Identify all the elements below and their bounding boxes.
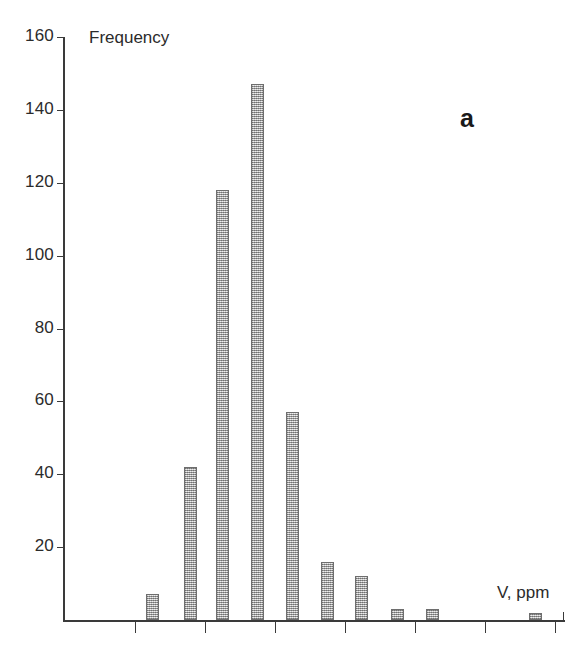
y-axis-tick xyxy=(57,329,65,330)
bar xyxy=(184,467,197,620)
x-axis-tick xyxy=(275,622,276,633)
y-axis-tick xyxy=(57,37,65,38)
x-axis-tick xyxy=(485,622,486,633)
bar xyxy=(391,609,404,620)
y-axis-tick-label: 20 xyxy=(8,536,54,556)
x-axis-tick xyxy=(135,622,136,633)
y-axis-title: Frequency xyxy=(89,28,169,48)
y-axis-tick-label: 40 xyxy=(8,463,54,483)
x-axis-title: V, ppm xyxy=(497,583,549,603)
bar xyxy=(355,576,368,620)
y-axis-tick xyxy=(57,183,65,184)
x-axis-tick xyxy=(345,622,346,633)
y-axis-tick xyxy=(57,256,65,257)
y-axis-tick-label: 120 xyxy=(8,172,54,192)
bar xyxy=(216,190,229,620)
y-axis-tick xyxy=(57,547,65,548)
x-axis-tick xyxy=(415,622,416,633)
bar xyxy=(251,84,264,620)
panel-label: a xyxy=(460,104,474,133)
y-axis-tick xyxy=(57,401,65,402)
x-axis-right-cap xyxy=(563,612,564,621)
y-axis-tick-label: 160 xyxy=(8,26,54,46)
y-axis-tick xyxy=(57,110,65,111)
y-axis-tick-label: 100 xyxy=(8,245,54,265)
x-axis-line xyxy=(63,620,565,622)
bar xyxy=(426,609,439,620)
bar xyxy=(321,562,334,620)
y-axis-tick-label: 140 xyxy=(8,99,54,119)
x-axis-tick xyxy=(555,622,556,633)
y-axis-tick-label: 60 xyxy=(8,390,54,410)
bar xyxy=(146,594,159,620)
bar xyxy=(286,412,299,620)
x-axis-tick xyxy=(205,622,206,633)
bar xyxy=(529,613,542,620)
y-axis-tick-label: 80 xyxy=(8,318,54,338)
y-axis-tick xyxy=(57,474,65,475)
histogram-figure: 20406080100120140160 Frequency V, ppm a xyxy=(0,0,587,654)
